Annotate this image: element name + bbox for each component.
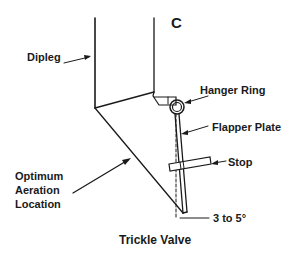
flapper-plate-label: Flapper Plate xyxy=(212,121,281,134)
hanger-ring-label: Hanger Ring xyxy=(200,84,265,97)
optimum-label-line3: Location xyxy=(15,198,61,211)
optimum-label-line1: Optimum xyxy=(15,170,63,183)
stop-label: Stop xyxy=(228,156,252,169)
flapper-plate-arrowhead xyxy=(181,130,188,135)
valve-seat-edge xyxy=(95,108,183,213)
optimum-aeration-leader xyxy=(73,160,128,193)
dipleg-bottom-edge xyxy=(95,92,154,108)
hanger-bracket xyxy=(153,92,176,105)
stop-block xyxy=(169,157,211,171)
corner-label: C xyxy=(171,16,182,29)
angle-label: 3 to 5° xyxy=(213,212,246,225)
trickle-valve-diagram: C Dipleg Hanger Ring Flapper Plate Stop … xyxy=(0,0,293,256)
optimum-label-line2: Aeration xyxy=(15,184,60,197)
stop-arrowhead xyxy=(211,160,218,165)
hanger-ring-arrowhead xyxy=(184,99,191,104)
dipleg-arrowhead xyxy=(84,55,91,60)
dipleg-label: Dipleg xyxy=(27,51,61,64)
diagram-title: Trickle Valve xyxy=(119,234,191,247)
optimum-aeration-arrowhead xyxy=(122,158,131,165)
flapper-plate-leader xyxy=(185,126,208,133)
